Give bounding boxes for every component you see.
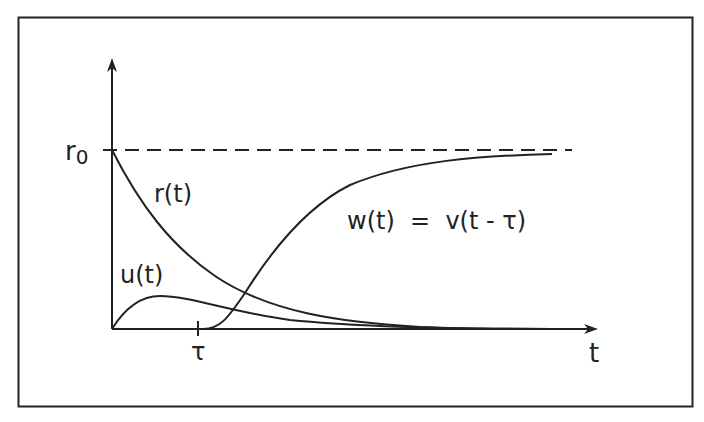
tau-label: τ — [191, 338, 205, 366]
u-curve-label: u(t) — [120, 261, 163, 289]
r-curve-label: r(t) — [154, 180, 192, 208]
curve-r — [112, 150, 552, 329]
curve-w — [203, 154, 552, 329]
diagram: r0 r(t) u(t) w(t) = v(t - τ) τ t — [0, 0, 704, 422]
curve-u — [112, 296, 552, 329]
t-axis-label: t — [589, 338, 599, 368]
w-curve-label: w(t) = v(t - τ) — [347, 207, 526, 235]
r0-label: r0 — [65, 136, 88, 169]
